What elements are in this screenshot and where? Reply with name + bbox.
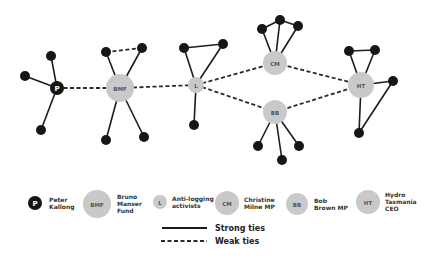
legend-description: Milne MP xyxy=(244,203,275,210)
legend-swatch-label: HT xyxy=(364,200,373,206)
hub-node-l: L xyxy=(188,77,204,93)
weak-tie-edge xyxy=(275,85,361,112)
legend-description: CEO xyxy=(385,205,399,212)
strong-ties-label: Strong ties xyxy=(215,224,265,233)
satellite-node xyxy=(277,155,287,165)
hub-label: CM xyxy=(270,61,280,67)
legend-swatch-label: CM xyxy=(222,201,232,207)
satellite-node xyxy=(218,39,228,49)
satellite-node xyxy=(101,47,111,57)
satellite-node xyxy=(275,15,285,25)
satellite-node xyxy=(344,46,354,56)
legend-swatch-label: P xyxy=(32,200,37,208)
strong-tie-edge xyxy=(184,44,223,48)
legend-description: activists xyxy=(172,202,201,209)
satellite-node xyxy=(46,51,56,61)
legend-strong-ties: Strong ties xyxy=(162,224,265,233)
satellite-node xyxy=(137,43,147,53)
legend-item-cm: CMChristineMilne MP xyxy=(215,191,275,215)
legend-item-l: LAnti-loggingactivists xyxy=(153,195,214,210)
legend-description: Peter xyxy=(49,196,67,203)
weak-tie-edge xyxy=(275,63,361,85)
legend-description: Bob xyxy=(314,197,328,204)
legend-description: Kallong xyxy=(49,203,75,211)
satellite-node xyxy=(257,24,267,34)
satellite-node xyxy=(253,141,263,151)
legend-item-ht: HTHydroTasmaniaCEO xyxy=(356,190,417,214)
legend-description: Christine xyxy=(244,196,275,203)
satellite-node xyxy=(294,141,304,151)
satellite-node xyxy=(354,128,364,138)
legend-item-bmf: BMFBrunoManserFund xyxy=(83,190,142,218)
hub-node-ht: HT xyxy=(348,72,374,98)
legend-swatch-label: BMF xyxy=(90,202,104,208)
legend-description: Fund xyxy=(117,207,134,214)
weak-ties-layer xyxy=(57,48,361,112)
satellite-node xyxy=(293,21,303,31)
satellite-node xyxy=(20,71,30,81)
satellite-node xyxy=(139,132,149,142)
hub-label: BMF xyxy=(113,86,127,92)
satellite-node xyxy=(370,45,380,55)
satellite-node xyxy=(189,120,199,130)
weak-ties-label: Weak ties xyxy=(215,237,259,246)
hub-node-p: P xyxy=(50,81,64,95)
satellite-node xyxy=(36,125,46,135)
legend-description: Manser xyxy=(117,200,142,207)
legend: PPeterKallongBMFBrunoManserFundLAnti-log… xyxy=(28,190,417,246)
satellite-node xyxy=(179,43,189,53)
legend-description: Bruno xyxy=(117,193,137,200)
satellite-node xyxy=(101,135,111,145)
network-diagram: PBMFLCMBBHT PPeterKallongBMFBrunoManserF… xyxy=(0,0,433,262)
hub-label: HT xyxy=(357,83,366,89)
hub-label: BB xyxy=(271,110,279,116)
hub-node-bmf: BMF xyxy=(106,74,134,102)
legend-description: Tasmania xyxy=(385,198,417,205)
satellite-node xyxy=(388,76,398,86)
legend-swatch-label: BB xyxy=(293,202,301,208)
hub-label: L xyxy=(194,83,198,89)
legend-item-bb: BBBobBrown MP xyxy=(286,193,349,215)
legend-description: Brown MP xyxy=(314,204,349,211)
legend-nodes: PPeterKallongBMFBrunoManserFundLAnti-log… xyxy=(28,190,417,218)
weak-tie-edge xyxy=(196,85,275,112)
weak-tie-edge xyxy=(106,48,142,52)
hub-label: P xyxy=(54,85,59,93)
hub-node-bb: BB xyxy=(263,100,287,124)
legend-item-p: PPeterKallong xyxy=(28,196,75,211)
legend-weak-ties: Weak ties xyxy=(161,237,259,246)
hub-node-cm: CM xyxy=(263,51,287,75)
legend-swatch-label: L xyxy=(158,200,162,206)
